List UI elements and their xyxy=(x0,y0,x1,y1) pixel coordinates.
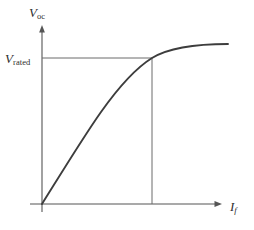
saturation-curve-figure: Voc Vrated If xyxy=(0,0,254,230)
saturation-curve xyxy=(42,44,228,204)
x-axis xyxy=(30,201,222,207)
rated-voltage-label: Vrated xyxy=(5,50,30,67)
rated-voltage-label-subscript: rated xyxy=(13,57,31,67)
y-axis-label-symbol: V xyxy=(29,5,37,20)
y-axis-label-subscript: oc xyxy=(37,11,45,21)
y-axis xyxy=(39,25,45,212)
x-axis-label: If xyxy=(230,198,237,215)
y-axis-label: Voc xyxy=(29,4,45,21)
x-axis-label-subscript: f xyxy=(234,205,237,215)
plot-area xyxy=(0,0,254,230)
rated-voltage-label-symbol: V xyxy=(5,51,13,66)
